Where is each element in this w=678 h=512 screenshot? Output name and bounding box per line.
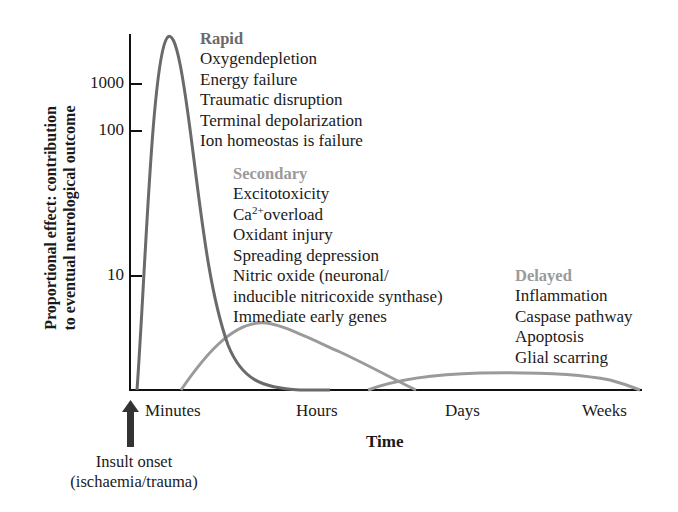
delayed-title: Delayed xyxy=(515,266,633,286)
secondary-item: inducible nitricoxide synthase) xyxy=(233,287,443,308)
x-category-days: Days xyxy=(445,401,480,421)
delayed-item: Caspase pathway xyxy=(515,307,633,328)
x-category-weeks: Weeks xyxy=(582,401,627,421)
rapid-item: Energy failure xyxy=(200,70,363,91)
secondary-item-calcium: Ca2+overload xyxy=(233,205,443,226)
rapid-item: Traumatic disruption xyxy=(200,90,363,111)
x-category-hours: Hours xyxy=(296,401,338,421)
secondary-item: Nitric oxide (neuronal/ xyxy=(233,266,443,287)
calcium-superscript: 2+ xyxy=(252,204,264,216)
rapid-item: Terminal depolarization xyxy=(200,111,363,132)
y-tick-label-1000: 1000 xyxy=(64,73,124,93)
secondary-item: Immediate early genes xyxy=(233,307,443,328)
x-axis-label: Time xyxy=(366,432,403,452)
secondary-item: Excitotoxicity xyxy=(233,184,443,205)
rapid-title: Rapid xyxy=(200,29,363,49)
insult-onset-label: Insult onset (ischaemia/trauma) xyxy=(34,452,234,492)
insult-onset-arrow xyxy=(122,400,139,447)
x-category-minutes: Minutes xyxy=(145,401,201,421)
secondary-title: Secondary xyxy=(233,164,443,184)
insult-onset-line2: (ischaemia/trauma) xyxy=(34,472,234,492)
y-tick-label-100: 100 xyxy=(64,120,124,140)
delayed-item: Glial scarring xyxy=(515,348,633,369)
secondary-item: Spreading depression xyxy=(233,246,443,267)
rapid-label-block: Rapid Oxygendepletion Energy failure Tra… xyxy=(200,29,363,152)
calcium-prefix: Ca xyxy=(233,205,252,224)
insult-onset-line1: Insult onset xyxy=(34,452,234,472)
delayed-item: Apoptosis xyxy=(515,327,633,348)
secondary-label-block: Secondary Excitotoxicity Ca2+overload Ox… xyxy=(233,164,443,328)
y-tick-label-10: 10 xyxy=(64,265,124,285)
delayed-label-block: Delayed Inflammation Caspase pathway Apo… xyxy=(515,266,633,368)
secondary-item: Oxidant injury xyxy=(233,225,443,246)
calcium-suffix: overload xyxy=(264,205,323,224)
rapid-item: Ion homeostas is failure xyxy=(200,131,363,152)
secondary-curve xyxy=(181,323,416,390)
delayed-item: Inflammation xyxy=(515,286,633,307)
rapid-item: Oxygendepletion xyxy=(200,49,363,70)
